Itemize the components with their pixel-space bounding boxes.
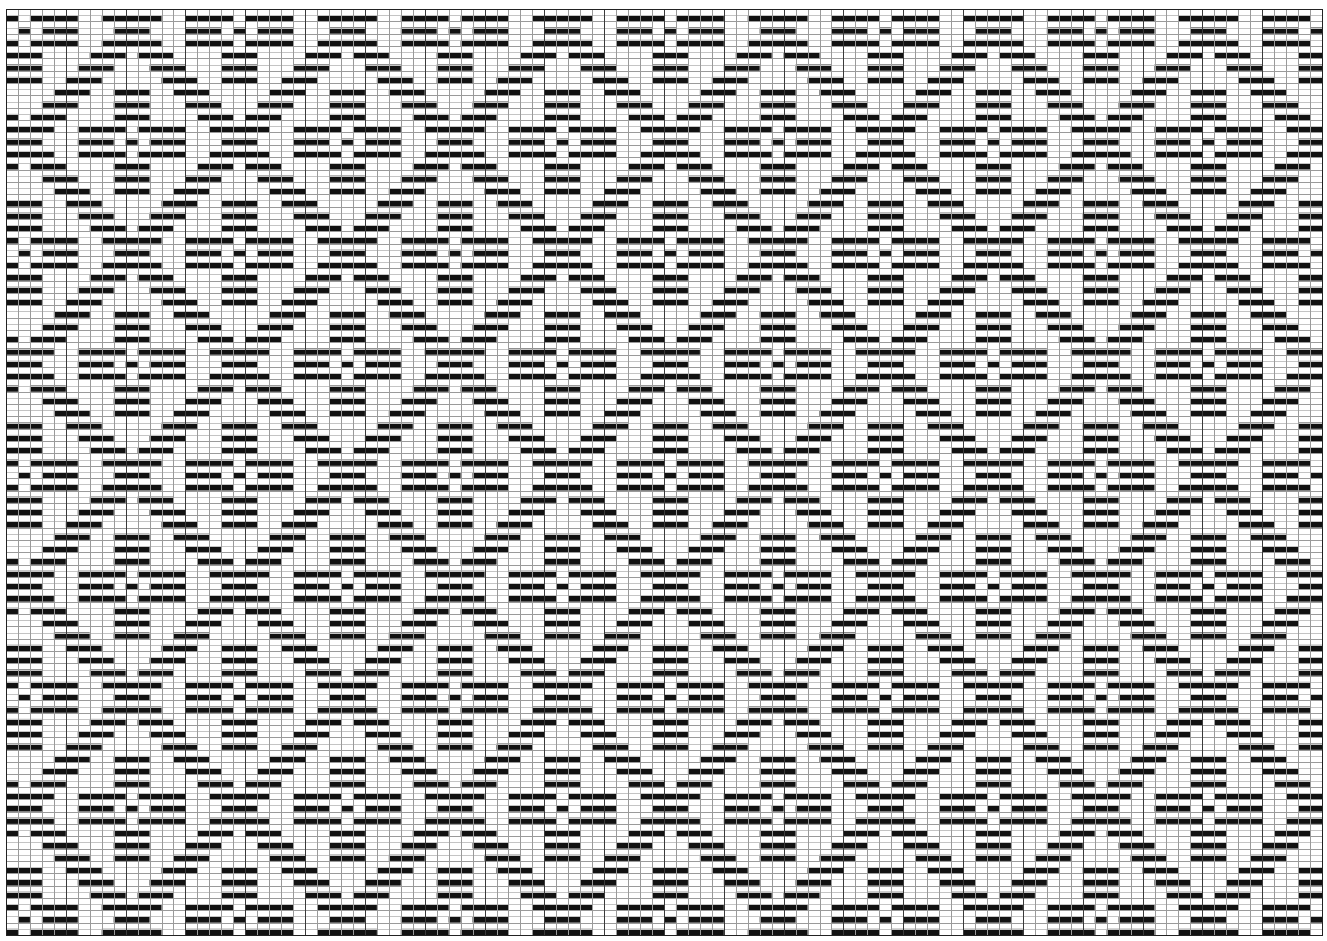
pattern-grid — [0, 0, 1327, 941]
weaving-draft: Weaving draft pattern grid — [0, 0, 1327, 941]
